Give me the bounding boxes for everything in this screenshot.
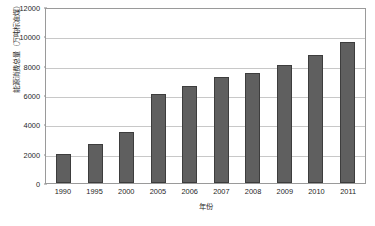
x-tick-label: 2000 — [110, 185, 142, 199]
bar-slot — [269, 9, 301, 183]
y-tick-label: 12000 — [19, 4, 40, 13]
bar-slot — [237, 9, 269, 183]
bar-slot — [111, 9, 143, 183]
y-tick-label: 0 — [36, 180, 40, 189]
y-tick-label: 10000 — [19, 33, 40, 42]
bar — [119, 132, 134, 183]
bar — [245, 73, 260, 183]
bar-slot — [80, 9, 112, 183]
y-tick-label: 6000 — [24, 92, 40, 101]
x-tick-label: 2008 — [237, 185, 269, 199]
bar — [214, 77, 229, 183]
x-tick-label: 2009 — [269, 185, 301, 199]
bar — [151, 94, 166, 183]
bar — [340, 42, 355, 183]
bar-slot — [48, 9, 80, 183]
bar — [56, 154, 71, 183]
bar-slot — [206, 9, 238, 183]
bar-series — [46, 9, 365, 183]
x-tick-label: 2007 — [206, 185, 238, 199]
y-axis-tick-labels: 020004000600080001000012000 — [8, 8, 44, 184]
y-tick-label: 8000 — [24, 62, 40, 71]
y-tick-label: 4000 — [24, 121, 40, 130]
bar-slot — [143, 9, 175, 183]
x-tick-label: 1995 — [79, 185, 111, 199]
bar-slot — [174, 9, 206, 183]
x-tick-label: 2011 — [332, 185, 364, 199]
bar-slot — [332, 9, 364, 183]
bar — [182, 86, 197, 183]
bar — [88, 144, 103, 183]
bar-chart-figure: 能源消费总量（万吨标准煤） 02000400060008000100001200… — [0, 0, 375, 226]
x-tick-label: 2010 — [301, 185, 333, 199]
x-tick-label: 2006 — [174, 185, 206, 199]
bar — [308, 55, 323, 183]
x-tick-label: 2005 — [142, 185, 174, 199]
bar — [277, 65, 292, 183]
y-tick-label: 2000 — [24, 150, 40, 159]
bar-slot — [300, 9, 332, 183]
x-tick-label: 1990 — [47, 185, 79, 199]
x-axis-tick-labels: 1990199520002005200620072008200920102011 — [45, 185, 366, 199]
plot-area — [45, 8, 366, 184]
x-axis-title: 年份 — [45, 200, 366, 211]
